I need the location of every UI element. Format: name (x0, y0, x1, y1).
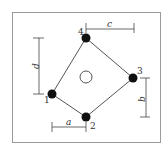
plate-frame (13, 13, 161, 143)
bolt-1-label: 1 (44, 95, 50, 105)
dimension-d-label: d (31, 63, 41, 69)
dimension-a-label: a (66, 117, 71, 127)
dimension-b-label: b (137, 96, 147, 102)
center-hole-icon (80, 71, 92, 83)
bolt-2-label: 2 (90, 121, 96, 131)
bolt-pattern-diagram: 1 2 3 4 c d b a (0, 0, 167, 153)
bolt-4-label: 4 (78, 27, 84, 37)
dimension-c-label: c (107, 19, 112, 29)
bolt-3-label: 3 (137, 66, 143, 76)
bolt-outline (52, 38, 133, 117)
